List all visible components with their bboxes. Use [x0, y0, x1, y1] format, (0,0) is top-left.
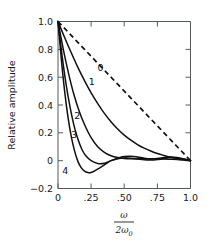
- y-tick-marks: [58, 22, 191, 189]
- y-tick-label: 0.8: [38, 44, 53, 55]
- x-tick-label: .50: [117, 192, 132, 203]
- chart-canvas: 1.0 0.8 0.6 0.4 0.2 0 −0.2 0 .25 .50 .75…: [0, 0, 213, 242]
- x-axis-title: ω 2ω0: [114, 210, 134, 238]
- curve-label-0: 0: [97, 62, 103, 73]
- x-tick-label: 0: [55, 192, 61, 203]
- x-axis-numerator: ω: [120, 210, 128, 220]
- y-tick-label: 0.6: [38, 72, 53, 83]
- figure-container: 1.0 0.8 0.6 0.4 0.2 0 −0.2 0 .25 .50 .75…: [0, 0, 213, 242]
- curve-4: [58, 22, 191, 173]
- y-axis-title: Relative amplitude: [6, 60, 17, 149]
- y-tick-label: −0.2: [30, 183, 53, 194]
- curve-label-3: 3: [71, 129, 77, 140]
- y-tick-label: 0.2: [38, 127, 53, 138]
- curve-label-1: 1: [89, 76, 95, 87]
- x-tick-marks: [58, 22, 191, 189]
- plot-frame: [58, 22, 191, 189]
- data-curves: [58, 22, 191, 173]
- x-tick-label: .75: [150, 192, 165, 203]
- curve-label-2: 2: [74, 110, 80, 121]
- x-tick-label: .25: [84, 192, 99, 203]
- y-tick-labels: 1.0 0.8 0.6 0.4 0.2 0 −0.2: [30, 16, 53, 194]
- x-tick-label: 1.0: [183, 192, 198, 203]
- curve-label-4: 4: [62, 165, 68, 176]
- x-tick-labels: 0 .25 .50 .75 1.0: [55, 192, 198, 203]
- y-tick-label: 1.0: [38, 16, 53, 27]
- x-axis-denominator: 2ω0: [114, 225, 132, 238]
- y-tick-label: 0: [47, 155, 53, 166]
- y-tick-label: 0.4: [38, 100, 53, 111]
